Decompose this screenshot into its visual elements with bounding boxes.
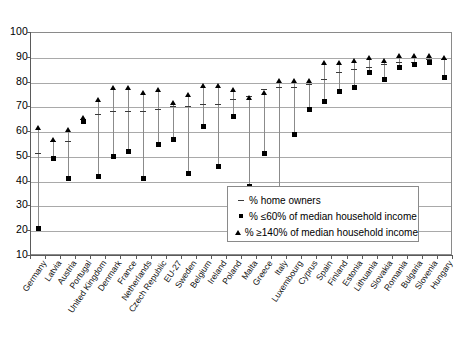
data-point-below-60 <box>96 174 101 179</box>
x-axis-tick-mark <box>301 255 302 259</box>
gridline <box>31 182 451 183</box>
x-axis-tick-mark <box>452 255 453 259</box>
dash-icon <box>235 195 246 206</box>
data-point-above-140 <box>426 53 432 58</box>
y-axis-tick-label: 90 <box>2 51 28 61</box>
gridline <box>31 58 451 59</box>
x-axis-tick-mark <box>105 255 106 259</box>
x-axis-tick-mark <box>437 255 438 259</box>
x-axis-tick-mark <box>241 255 242 259</box>
data-point-below-60 <box>412 62 417 67</box>
data-point-home-owners <box>306 84 312 85</box>
connector-line <box>264 94 265 153</box>
data-point-home-owners <box>276 87 282 88</box>
y-axis-tick-label: 80 <box>2 76 28 86</box>
y-axis-tick-mark <box>27 57 31 58</box>
legend-label: % ≤60% of median household income <box>249 211 417 222</box>
x-axis-tick-mark <box>30 255 31 259</box>
gridline <box>31 157 451 158</box>
x-axis-tick-mark <box>362 255 363 259</box>
x-axis-tick-mark <box>211 255 212 259</box>
x-axis-tick-mark <box>151 255 152 259</box>
y-axis-tick-label: 30 <box>2 199 28 209</box>
data-point-below-60 <box>382 77 387 82</box>
data-point-home-owners <box>336 72 342 73</box>
data-point-home-owners <box>35 153 41 154</box>
data-point-home-owners <box>215 104 221 105</box>
y-axis-tick-mark <box>27 106 31 107</box>
data-point-above-140 <box>261 90 267 95</box>
data-point-below-60 <box>36 226 41 231</box>
connector-line <box>68 131 69 178</box>
connector-line <box>203 87 204 127</box>
connector-line <box>324 64 325 101</box>
y-axis-tick-mark <box>27 131 31 132</box>
x-axis-tick-mark <box>377 255 378 259</box>
x-axis-tick-mark <box>226 255 227 259</box>
data-point-home-owners <box>65 141 71 142</box>
data-point-below-60 <box>51 156 56 161</box>
data-point-below-60 <box>337 89 342 94</box>
x-axis-tick-mark <box>136 255 137 259</box>
data-point-above-140 <box>65 127 71 132</box>
legend-item-above-140: % ≥140% of median household income <box>235 224 418 240</box>
y-axis-tick-mark <box>27 156 31 157</box>
y-axis-tick-mark <box>27 181 31 182</box>
legend-label: % home owners <box>249 195 321 206</box>
data-point-above-140 <box>50 137 56 142</box>
connector-line <box>233 91 234 116</box>
data-point-above-140 <box>35 125 41 130</box>
y-axis-tick-mark <box>27 230 31 231</box>
data-point-home-owners <box>200 104 206 105</box>
data-point-below-60 <box>262 151 267 156</box>
x-axis-tick-mark <box>60 255 61 259</box>
data-point-below-60 <box>156 142 161 147</box>
data-point-below-60 <box>171 137 176 142</box>
y-axis-tick-label: 50 <box>2 150 28 160</box>
data-point-home-owners <box>170 106 176 107</box>
data-point-above-140 <box>276 78 282 83</box>
data-point-above-140 <box>366 55 372 60</box>
y-axis-tick-label: 100 <box>2 26 28 36</box>
data-point-home-owners <box>140 111 146 112</box>
data-point-below-60 <box>352 85 357 90</box>
connector-line <box>354 62 355 87</box>
y-axis-tick-label: 20 <box>2 224 28 234</box>
data-point-above-140 <box>381 58 387 63</box>
data-point-above-140 <box>336 60 342 65</box>
data-point-above-140 <box>95 97 101 102</box>
data-point-home-owners <box>396 62 402 63</box>
data-point-home-owners <box>366 67 372 68</box>
x-axis-tick-mark <box>422 255 423 259</box>
data-point-below-60 <box>66 176 71 181</box>
data-point-home-owners <box>95 114 101 115</box>
data-point-home-owners <box>321 79 327 80</box>
y-axis-tick-label: 40 <box>2 175 28 185</box>
connector-line <box>294 82 295 134</box>
connector-line <box>98 101 99 175</box>
data-point-below-60 <box>216 164 221 169</box>
x-axis-tick-mark <box>271 255 272 259</box>
data-point-below-60 <box>141 176 146 181</box>
x-axis-tick-mark <box>166 255 167 259</box>
x-axis-tick-mark <box>347 255 348 259</box>
data-point-below-60 <box>397 65 402 70</box>
connector-line <box>339 64 340 91</box>
data-point-below-60 <box>111 154 116 159</box>
x-axis-tick-mark <box>286 255 287 259</box>
y-axis-tick-label: 10 <box>2 249 28 259</box>
data-point-below-60 <box>442 75 447 80</box>
connector-line <box>113 89 114 156</box>
chart-root: 100908070605040302010 GermanyLatviaAustr… <box>0 0 463 342</box>
data-point-above-140 <box>441 55 447 60</box>
data-point-below-60 <box>201 124 206 129</box>
data-point-above-140 <box>170 100 176 105</box>
connector-line <box>218 87 219 166</box>
connector-line <box>309 82 310 109</box>
data-point-above-140 <box>125 85 131 90</box>
legend-item-home-owners: % home owners <box>235 192 418 208</box>
x-axis-tick-mark <box>75 255 76 259</box>
y-axis-tick-label: 60 <box>2 125 28 135</box>
data-point-below-60 <box>292 132 297 137</box>
data-point-above-140 <box>306 78 312 83</box>
